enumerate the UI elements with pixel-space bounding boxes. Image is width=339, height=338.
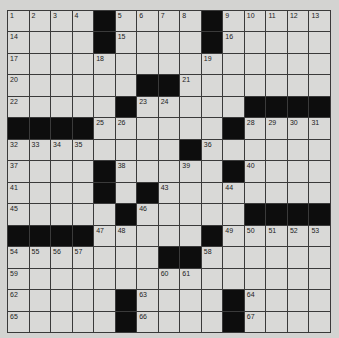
grid-cell[interactable]: 59 xyxy=(8,269,29,289)
grid-cell[interactable]: 55 xyxy=(30,247,51,267)
grid-cell[interactable] xyxy=(223,247,244,267)
grid-cell[interactable] xyxy=(202,75,223,95)
grid-cell[interactable] xyxy=(288,32,309,52)
grid-cell[interactable] xyxy=(73,204,94,224)
grid-cell[interactable] xyxy=(266,32,287,52)
grid-cell[interactable]: 22 xyxy=(8,97,29,117)
grid-cell[interactable]: 23 xyxy=(137,97,158,117)
grid-cell[interactable]: 11 xyxy=(266,11,287,31)
grid-cell[interactable] xyxy=(51,97,72,117)
grid-cell[interactable]: 31 xyxy=(309,118,330,138)
grid-cell[interactable]: 7 xyxy=(159,11,180,31)
grid-cell[interactable] xyxy=(73,290,94,310)
grid-cell[interactable] xyxy=(266,140,287,160)
grid-cell[interactable] xyxy=(223,269,244,289)
grid-cell[interactable] xyxy=(30,161,51,181)
grid-cell[interactable] xyxy=(180,118,201,138)
grid-cell[interactable]: 60 xyxy=(159,269,180,289)
grid-cell[interactable]: 45 xyxy=(8,204,29,224)
grid-cell[interactable] xyxy=(94,97,115,117)
grid-cell[interactable] xyxy=(202,290,223,310)
grid-cell[interactable] xyxy=(180,183,201,203)
grid-cell[interactable]: 2 xyxy=(30,11,51,31)
grid-cell[interactable] xyxy=(266,312,287,332)
grid-cell[interactable] xyxy=(73,183,94,203)
grid-cell[interactable] xyxy=(159,226,180,246)
grid-cell[interactable]: 50 xyxy=(245,226,266,246)
grid-cell[interactable]: 51 xyxy=(266,226,287,246)
grid-cell[interactable]: 38 xyxy=(116,161,137,181)
grid-cell[interactable] xyxy=(94,269,115,289)
grid-cell[interactable] xyxy=(309,183,330,203)
grid-cell[interactable] xyxy=(73,75,94,95)
grid-cell[interactable] xyxy=(116,183,137,203)
grid-cell[interactable] xyxy=(94,247,115,267)
grid-cell[interactable] xyxy=(137,226,158,246)
grid-cell[interactable] xyxy=(116,75,137,95)
grid-cell[interactable] xyxy=(288,290,309,310)
grid-cell[interactable]: 62 xyxy=(8,290,29,310)
grid-cell[interactable]: 35 xyxy=(73,140,94,160)
grid-cell[interactable] xyxy=(245,140,266,160)
grid-cell[interactable]: 57 xyxy=(73,247,94,267)
grid-cell[interactable] xyxy=(159,32,180,52)
grid-cell[interactable] xyxy=(288,312,309,332)
grid-cell[interactable] xyxy=(159,140,180,160)
grid-cell[interactable] xyxy=(180,312,201,332)
grid-cell[interactable]: 33 xyxy=(30,140,51,160)
grid-cell[interactable] xyxy=(266,54,287,74)
grid-cell[interactable] xyxy=(159,54,180,74)
grid-cell[interactable]: 39 xyxy=(180,161,201,181)
grid-cell[interactable]: 5 xyxy=(116,11,137,31)
grid-cell[interactable] xyxy=(223,204,244,224)
grid-cell[interactable]: 64 xyxy=(245,290,266,310)
grid-cell[interactable] xyxy=(223,140,244,160)
grid-cell[interactable] xyxy=(180,54,201,74)
grid-cell[interactable]: 20 xyxy=(8,75,29,95)
grid-cell[interactable]: 21 xyxy=(180,75,201,95)
grid-cell[interactable] xyxy=(73,32,94,52)
grid-cell[interactable] xyxy=(51,54,72,74)
grid-cell[interactable] xyxy=(245,247,266,267)
grid-cell[interactable]: 6 xyxy=(137,11,158,31)
grid-cell[interactable] xyxy=(116,54,137,74)
grid-cell[interactable]: 49 xyxy=(223,226,244,246)
grid-cell[interactable]: 48 xyxy=(116,226,137,246)
grid-cell[interactable] xyxy=(245,269,266,289)
grid-cell[interactable] xyxy=(288,269,309,289)
grid-cell[interactable] xyxy=(159,312,180,332)
grid-cell[interactable]: 12 xyxy=(288,11,309,31)
grid-cell[interactable]: 17 xyxy=(8,54,29,74)
grid-cell[interactable]: 30 xyxy=(288,118,309,138)
grid-cell[interactable] xyxy=(223,75,244,95)
grid-cell[interactable]: 14 xyxy=(8,32,29,52)
grid-cell[interactable]: 32 xyxy=(8,140,29,160)
grid-cell[interactable] xyxy=(202,118,223,138)
grid-cell[interactable] xyxy=(30,204,51,224)
grid-cell[interactable] xyxy=(266,290,287,310)
grid-cell[interactable] xyxy=(116,247,137,267)
grid-cell[interactable]: 40 xyxy=(245,161,266,181)
grid-cell[interactable] xyxy=(73,97,94,117)
grid-cell[interactable] xyxy=(288,161,309,181)
grid-cell[interactable] xyxy=(266,75,287,95)
grid-cell[interactable] xyxy=(30,290,51,310)
grid-cell[interactable] xyxy=(137,140,158,160)
grid-cell[interactable] xyxy=(51,290,72,310)
grid-cell[interactable] xyxy=(245,75,266,95)
grid-cell[interactable]: 54 xyxy=(8,247,29,267)
grid-cell[interactable] xyxy=(309,269,330,289)
grid-cell[interactable] xyxy=(30,269,51,289)
grid-cell[interactable] xyxy=(30,32,51,52)
grid-cell[interactable] xyxy=(159,290,180,310)
grid-cell[interactable]: 15 xyxy=(116,32,137,52)
grid-cell[interactable]: 9 xyxy=(223,11,244,31)
grid-cell[interactable]: 34 xyxy=(51,140,72,160)
grid-cell[interactable] xyxy=(245,32,266,52)
grid-cell[interactable] xyxy=(30,97,51,117)
grid-cell[interactable] xyxy=(137,269,158,289)
grid-cell[interactable] xyxy=(266,247,287,267)
grid-cell[interactable]: 44 xyxy=(223,183,244,203)
grid-cell[interactable]: 8 xyxy=(180,11,201,31)
grid-cell[interactable] xyxy=(288,140,309,160)
